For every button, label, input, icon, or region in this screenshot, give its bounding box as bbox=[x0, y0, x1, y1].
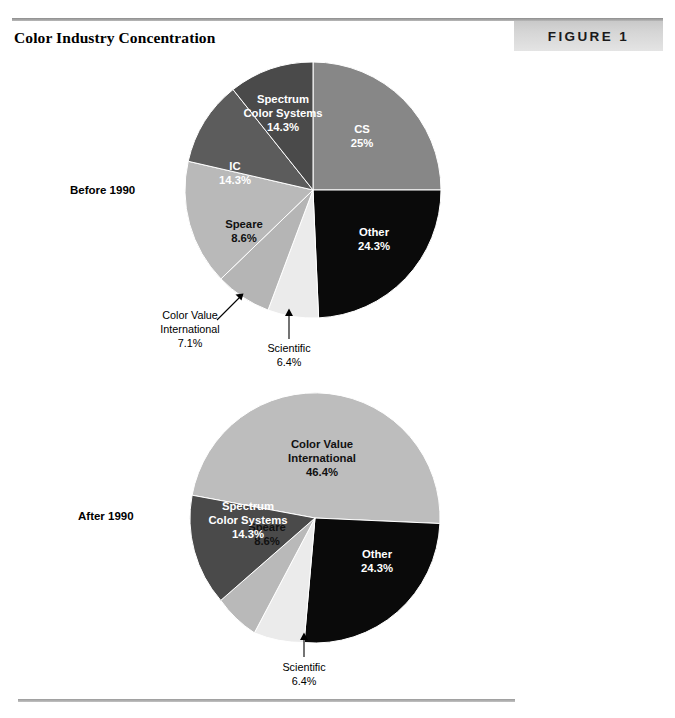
pie-slices-after bbox=[190, 393, 440, 643]
callout-scientific-name: Scientific bbox=[282, 661, 326, 673]
bottom-rule bbox=[18, 699, 515, 702]
pie-chart-before-1990: CS 25% Other 24.3% Speare 8.6% IC 14.3% … bbox=[0, 0, 675, 370]
slice-other[interactable] bbox=[313, 190, 441, 318]
pie-chart-after-1990-svg: Color Value International 46.4% Other 24… bbox=[0, 330, 675, 718]
slice-cs[interactable] bbox=[313, 62, 441, 190]
figure-page: Color Industry Concentration FIGURE 1 Be… bbox=[0, 0, 675, 718]
callout-cvi-name-1: Color Value bbox=[162, 309, 218, 321]
callout-scientific-pct: 6.4% bbox=[292, 675, 317, 687]
leader-line-color-value-international bbox=[217, 295, 242, 320]
leader-arrowhead-cvi bbox=[236, 294, 244, 301]
pie-slices-before bbox=[185, 62, 441, 318]
pie-chart-after-1990: Color Value International 46.4% Other 24… bbox=[0, 330, 675, 718]
slice-other[interactable] bbox=[304, 518, 440, 643]
pie-chart-before-1990-svg: CS 25% Other 24.3% Speare 8.6% IC 14.3% … bbox=[0, 0, 675, 370]
